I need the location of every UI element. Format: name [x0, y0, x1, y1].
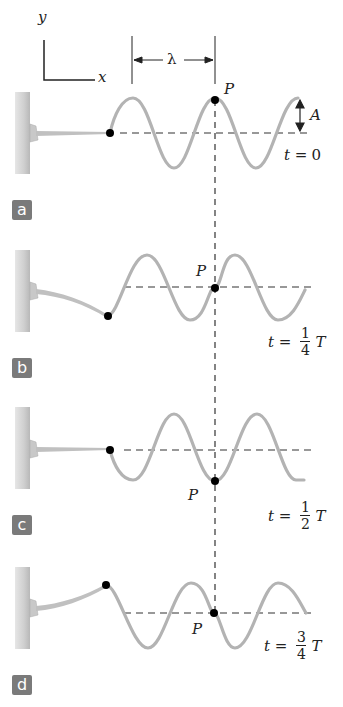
wall: [15, 407, 30, 489]
time-fraction: 1 4: [300, 326, 310, 357]
time-label-d: t = 3 4 T: [264, 630, 325, 661]
coordinate-axes: [44, 40, 95, 80]
time-suffix: T: [315, 507, 325, 525]
time-label-a: t = 0: [284, 146, 321, 164]
wall: [15, 250, 30, 332]
point-p-label: P: [188, 486, 198, 504]
y-axis-label: y: [38, 8, 46, 26]
string-tail: [36, 289, 108, 318]
string-end-dot: [102, 581, 110, 589]
amplitude-arrow: [296, 100, 304, 131]
fraction-numerator: 1: [301, 326, 310, 340]
fraction-denominator: 4: [301, 343, 310, 357]
time-prefix: t =: [264, 637, 287, 655]
panel-c: [15, 407, 312, 489]
panel-badge-c: c: [12, 515, 32, 535]
time-label-c: t = 1 2 T: [268, 500, 329, 531]
panel-b: [15, 250, 312, 332]
wave-curve: [110, 414, 304, 481]
time-value: 0: [311, 146, 321, 164]
string-end-dot: [106, 129, 114, 137]
point-p-dot: [210, 609, 218, 617]
point-p-dot: [211, 96, 219, 104]
string-end-dot: [104, 312, 112, 320]
time-suffix: T: [315, 333, 325, 351]
string-end-dot: [106, 446, 114, 454]
time-suffix: T: [311, 637, 321, 655]
wall: [15, 92, 30, 174]
point-p-dot: [211, 284, 219, 292]
time-label-b: t = 1 4 T: [268, 326, 329, 357]
panel-badge-b: b: [12, 358, 32, 378]
axes-lines: [44, 40, 95, 80]
string-tail: [36, 447, 110, 452]
time-fraction: 3 4: [296, 630, 306, 661]
time-prefix: t =: [268, 507, 291, 525]
wall: [15, 567, 30, 649]
fraction-denominator: 4: [297, 647, 306, 661]
string-tail: [36, 131, 110, 136]
x-axis-label: x: [98, 68, 106, 86]
string-tail: [36, 584, 107, 611]
fraction-numerator: 3: [297, 630, 306, 644]
wavelength-label: λ: [167, 50, 177, 68]
point-p-dot: [211, 477, 219, 485]
fraction-numerator: 1: [301, 500, 310, 514]
time-prefix: t =: [268, 333, 291, 351]
time-prefix: t =: [284, 146, 307, 164]
fraction-denominator: 2: [301, 517, 310, 531]
panel-badge-a: a: [12, 200, 32, 220]
panel-badge-d: d: [12, 675, 32, 695]
point-p-label: P: [196, 262, 206, 280]
amplitude-label: A: [310, 106, 321, 124]
point-p-label: P: [192, 620, 202, 638]
point-p-label: P: [224, 80, 234, 98]
panel-a: [15, 92, 312, 174]
time-fraction: 1 2: [300, 500, 310, 531]
